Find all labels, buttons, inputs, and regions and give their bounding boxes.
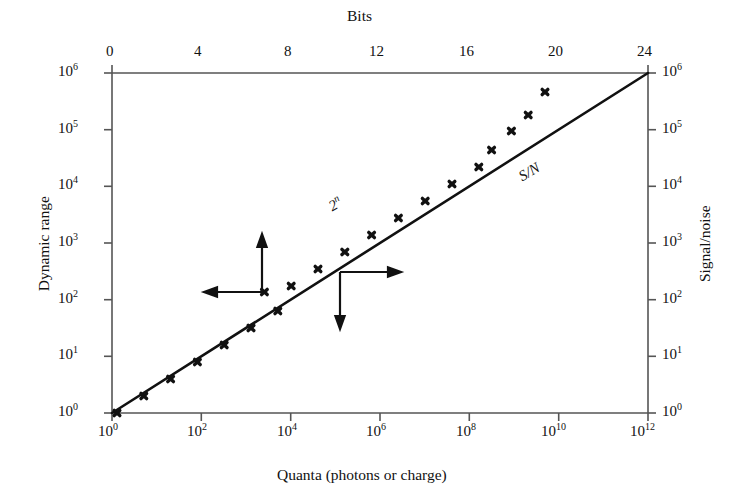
right-tick-1e6: 106 — [662, 64, 682, 79]
arrow-up-head — [257, 234, 266, 247]
marker-point — [315, 266, 321, 271]
marker-point — [275, 308, 281, 313]
left-tick-1e4: 104 — [58, 177, 78, 192]
left-axis-title: Dynamic range — [36, 164, 52, 324]
left-tick-1e1: 101 — [58, 347, 78, 362]
marker-point — [396, 215, 402, 220]
bottom-tick-1e8: 108 — [456, 424, 476, 439]
marker-point — [525, 112, 531, 117]
right-tick-1e4: 104 — [662, 177, 682, 192]
marker-point — [489, 147, 495, 152]
bottom-tick-1e0: 100 — [98, 424, 118, 439]
marker-point — [542, 89, 548, 94]
top-axis-title: Bits — [347, 8, 372, 24]
marker-point — [248, 325, 254, 330]
arrow-right-head — [388, 267, 401, 276]
top-tick-0: 0 — [106, 44, 114, 59]
marker-point — [369, 232, 375, 237]
right-tick-1e3: 103 — [662, 234, 682, 249]
data-markers — [114, 89, 548, 415]
figure-canvas: Bits Quanta (photons or charge) Dynamic … — [0, 0, 749, 502]
bottom-tick-1e4: 104 — [277, 424, 297, 439]
left-tick-1e6: 106 — [58, 64, 78, 79]
marker-point — [221, 342, 227, 347]
arrow-left-head — [204, 287, 217, 296]
bottom-tick-1e12: 1012 — [630, 424, 655, 439]
x-axis-ticks-bottom — [112, 413, 648, 421]
top-tick-12: 12 — [369, 44, 384, 59]
sn-line — [112, 73, 648, 413]
left-tick-1e3: 103 — [58, 234, 78, 249]
top-tick-4: 4 — [194, 44, 202, 59]
bottom-tick-1e10: 1010 — [541, 424, 566, 439]
right-tick-1e2: 102 — [662, 291, 682, 306]
left-tick-1e5: 105 — [58, 121, 78, 136]
marker-point — [195, 359, 201, 364]
top-tick-20: 20 — [548, 44, 563, 59]
marker-point — [449, 181, 455, 186]
bottom-tick-1e6: 106 — [366, 424, 386, 439]
annotation-arrows-left — [204, 234, 267, 297]
left-tick-1e2: 102 — [58, 291, 78, 306]
arrow-down-head — [335, 316, 344, 329]
marker-point — [476, 164, 482, 169]
marker-point — [114, 410, 120, 415]
right-axis-title: Signal/noise — [697, 164, 713, 324]
y-axis-ticks-right — [648, 73, 656, 413]
marker-point — [141, 393, 147, 398]
top-tick-8: 8 — [284, 44, 292, 59]
y-axis-ticks-left — [104, 73, 112, 413]
right-tick-1e0: 100 — [662, 404, 682, 419]
right-tick-1e1: 101 — [662, 347, 682, 362]
left-tick-1e0: 100 — [58, 404, 78, 419]
marker-point — [422, 198, 428, 203]
x-axis-ticks-top — [112, 65, 648, 73]
top-tick-24: 24 — [637, 44, 652, 59]
right-tick-1e5: 105 — [662, 121, 682, 136]
marker-point — [342, 249, 348, 254]
marker-point — [288, 283, 294, 288]
bottom-tick-1e2: 102 — [187, 424, 207, 439]
annotation-arrows-right — [335, 267, 401, 329]
marker-point — [509, 128, 515, 133]
top-tick-16: 16 — [459, 44, 474, 59]
marker-point — [168, 376, 174, 381]
bottom-axis-title: Quanta (photons or charge) — [277, 467, 447, 483]
